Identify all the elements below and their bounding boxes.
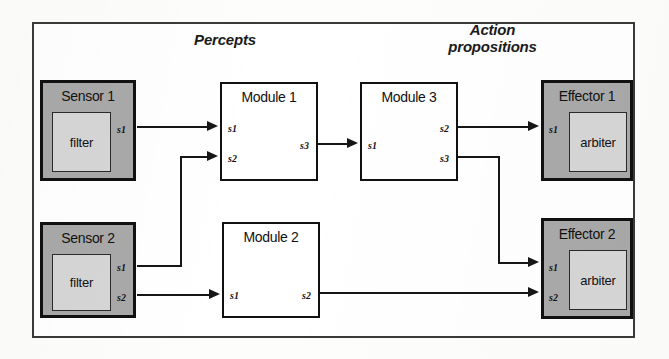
arrowhead-module1-s1: [207, 121, 218, 131]
sensor-2-title: Sensor 2: [43, 230, 133, 246]
sensor-1-title: Sensor 1: [43, 88, 133, 104]
wire-module3-s3-seg-h2: [498, 262, 531, 264]
arrowhead-effector1-s1: [528, 121, 539, 131]
node-effector-2[interactable]: Effector 2 arbiter s1 s2: [541, 218, 633, 319]
node-module-1[interactable]: Module 1 s1 s2 s3: [220, 82, 318, 181]
node-effector-1[interactable]: Effector 1 arbiter s1: [541, 80, 633, 181]
module-2-title: Module 2: [224, 229, 318, 245]
sensor-2-port-s1: s1: [117, 263, 126, 273]
arrowhead-module1-s2: [207, 151, 218, 161]
module-1-port-out-s3: s3: [300, 141, 309, 151]
node-sensor-2[interactable]: Sensor 2 filter s1 s2: [40, 222, 136, 318]
sensor-2-filter-box: filter: [52, 254, 111, 311]
sensor-1-filter-box: filter: [52, 112, 111, 172]
node-module-3[interactable]: Module 3 s1 s2 s3: [360, 82, 458, 181]
effector-1-port-s1: s1: [549, 125, 558, 135]
module-2-port-out-s2: s2: [302, 291, 311, 301]
arrowhead-effector2-s2: [528, 287, 539, 297]
effector-1-title: Effector 1: [544, 88, 630, 104]
effector-2-port-s2: s2: [549, 293, 558, 303]
diagram-canvas: Percepts Action propositions Sensor 1 fi…: [0, 0, 669, 359]
arrowhead-effector2-s1: [528, 257, 539, 267]
heading-percepts: Percepts: [155, 32, 295, 49]
wire-module3-s3-seg-h1: [458, 156, 500, 158]
wire-module3-s3-seg-v: [498, 156, 500, 264]
wire-sensor2-s1-seg-v: [180, 156, 182, 267]
effector-1-arbiter-box: arbiter: [569, 112, 627, 172]
wire-sensor2-s2-to-module2-s1: [137, 294, 211, 296]
arrowhead-module2-s1: [209, 289, 220, 299]
arrowhead-module3-s1: [347, 138, 358, 148]
effector-2-arbiter-box: arbiter: [569, 250, 627, 310]
module-1-port-in-s1: s1: [228, 124, 237, 134]
wire-sensor2-s1-seg-h2: [180, 156, 209, 158]
module-3-port-out-s3: s3: [440, 154, 449, 164]
wire-sensor2-s1-seg-h1: [137, 265, 182, 267]
sensor-1-port-s1: s1: [117, 125, 126, 135]
module-3-port-in-s1: s1: [368, 141, 377, 151]
wire-module1-s3-to-module3-s1: [318, 143, 349, 145]
module-1-port-in-s2: s2: [228, 154, 237, 164]
wire-sensor1-s1-to-module1-s1: [137, 126, 209, 128]
module-3-title: Module 3: [362, 89, 456, 105]
node-sensor-1[interactable]: Sensor 1 filter s1: [40, 80, 136, 181]
wire-module2-s2-to-effector2-s2: [320, 292, 530, 294]
node-module-2[interactable]: Module 2 s1 s2: [222, 222, 320, 318]
wire-module3-s2-to-effector1-s1: [458, 126, 530, 128]
effector-2-port-s1: s1: [549, 263, 558, 273]
module-1-title: Module 1: [222, 89, 316, 105]
module-3-port-out-s2: s2: [440, 124, 449, 134]
module-2-port-in-s1: s1: [230, 291, 239, 301]
heading-action-propositions: Action propositions: [405, 22, 580, 56]
sensor-2-port-s2: s2: [117, 293, 126, 303]
effector-2-title: Effector 2: [544, 226, 630, 242]
